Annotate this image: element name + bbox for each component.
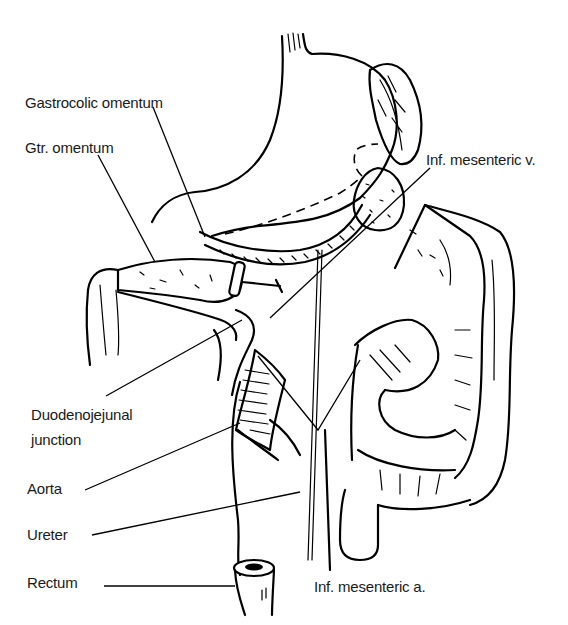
leader-gastrocolic-omentum <box>153 107 205 237</box>
stomach <box>152 33 397 236</box>
sigmoid-mesentery <box>355 320 472 496</box>
label-rectum: Rectum <box>27 574 77 591</box>
label-inf-mesenteric-v: Inf. mesenteric v. <box>426 151 536 168</box>
label-inf-mesenteric-a: Inf. mesenteric a. <box>314 578 425 595</box>
spleen <box>369 64 421 164</box>
label-gastrocolic-omentum: Gastrocolic omentum <box>25 94 163 111</box>
vessels <box>308 250 330 570</box>
aorta <box>236 350 300 460</box>
sigmoid-colon <box>340 345 470 560</box>
label-aorta: Aorta <box>27 480 62 497</box>
transverse-colon-reflected <box>118 259 282 302</box>
leader-gtr-omentum <box>98 155 155 262</box>
label-gtr-omentum: Gtr. omentum <box>25 139 113 156</box>
leader-aorta <box>85 423 240 490</box>
anatomy-figure: Gastrocolic omentum Gtr. omentum Inf. me… <box>0 0 568 625</box>
label-duodenojejunal-junction-line2: junction <box>31 431 81 448</box>
leader-ureter <box>92 492 300 535</box>
label-ureter: Ureter <box>27 526 67 543</box>
label-duodenojejunal-junction-line1: Duodenojejunal <box>31 406 132 423</box>
